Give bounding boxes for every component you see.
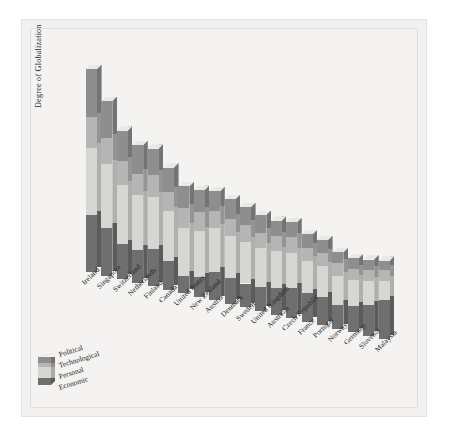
bar-segment-political (286, 222, 297, 237)
bar-segment-technological (148, 175, 159, 197)
bar-segment-political (117, 131, 128, 162)
legend-swatch-segment-personal (38, 367, 51, 378)
legend-swatch-icon (38, 353, 55, 385)
bar-segment-political (86, 69, 97, 117)
bar-segment-political (348, 258, 359, 269)
bar-segment-personal (363, 281, 374, 305)
bar-segment-political (379, 261, 390, 270)
bar-front-face (255, 215, 266, 311)
bar-united-states (178, 182, 194, 293)
legend-swatch-side (51, 353, 55, 385)
bar-front-face (286, 222, 297, 318)
bar-front-face (317, 240, 328, 325)
bar-segment-personal (209, 228, 220, 272)
bar-ireland (86, 65, 102, 272)
bar-segment-technological (132, 174, 143, 196)
legend-swatch-side-segment-personal (51, 367, 55, 378)
legend: Political Technological Personal Economi… (38, 344, 178, 396)
bar-segment-technological (348, 269, 359, 280)
bar-side-segment-personal (390, 276, 395, 296)
bar-segment-political (225, 199, 236, 219)
bar-segment-personal (332, 276, 343, 304)
legend-swatch-front (38, 357, 51, 385)
bar-segment-political (317, 240, 328, 253)
bar-denmark (225, 195, 241, 304)
bar-front-face (379, 261, 390, 339)
bar-segment-technological (379, 270, 390, 281)
bar-segment-technological (317, 253, 328, 266)
bar-segment-technological (302, 248, 313, 261)
bar-segment-personal (255, 248, 266, 287)
bar-segment-technological (194, 212, 205, 232)
bar-sweden (240, 203, 256, 308)
bar-front-face (225, 199, 236, 304)
legend-swatch-segment-economic (38, 378, 51, 385)
bar-segment-personal (271, 251, 282, 288)
bar-czech-republic (286, 218, 302, 319)
bar-segment-technological (101, 138, 112, 164)
bar-segment-technological (255, 233, 266, 248)
bar-front-face (101, 101, 112, 275)
bar-segment-personal (117, 185, 128, 244)
bar-switzerland (117, 126, 133, 279)
bar-segment-technological (117, 161, 128, 185)
bar-segment-political (194, 190, 205, 212)
bar-segment-political (332, 252, 343, 263)
bar-segment-personal (148, 197, 159, 249)
bar-segment-personal (225, 236, 236, 277)
bar-segment-personal (163, 211, 174, 261)
bar-segment-political (148, 149, 159, 175)
bar-segment-political (209, 191, 220, 211)
bar-segment-political (363, 260, 374, 271)
bar-segment-personal (132, 195, 143, 250)
bar-segment-personal (178, 228, 189, 276)
bar-segment-political (271, 221, 282, 236)
bar-segment-personal (348, 280, 359, 306)
stacked-bar-3d-chart: Degree of Globalization IrelandSingapore… (0, 0, 449, 436)
bar-side-segment-technological (390, 265, 395, 276)
legend-swatch-side-segment-economic (51, 378, 55, 385)
bar-segment-political (101, 101, 112, 138)
bar-segment-political (163, 168, 174, 192)
bar-segment-personal (240, 242, 251, 283)
bar-front-face (178, 186, 189, 293)
bar-portugal (317, 236, 333, 326)
bar-finland (148, 144, 164, 286)
bar-singapore (101, 97, 117, 276)
bar-segment-technological (163, 192, 174, 212)
bar-segment-personal (286, 253, 297, 288)
bar-segment-technological (209, 211, 220, 228)
bar-canada (163, 163, 179, 290)
bar-front-face (132, 145, 143, 282)
bar-front-face (240, 207, 251, 307)
bar-segment-personal (379, 281, 390, 301)
bar-segment-technological (286, 237, 297, 252)
bar-front-face (117, 131, 128, 279)
bar-netherlands (132, 141, 148, 283)
bar-segment-economic (86, 215, 97, 272)
bar-segment-technological (271, 236, 282, 251)
bar-segment-political (178, 186, 189, 208)
bar-front-face (148, 149, 159, 286)
bar-segment-political (302, 234, 313, 247)
bar-front-face (348, 258, 359, 332)
bar-segment-political (255, 215, 266, 232)
bar-segment-technological (178, 208, 189, 228)
bar-segment-political (132, 145, 143, 173)
y-axis-title: Degree of Globalization (34, 0, 43, 108)
bar-front-face (332, 252, 343, 328)
bar-segment-technological (363, 270, 374, 281)
bar-segment-personal (302, 261, 313, 294)
bar-segment-personal (86, 148, 97, 216)
bar-segment-technological (332, 263, 343, 276)
chart-page: Degree of Globalization IrelandSingapore… (0, 0, 449, 436)
bar-segment-personal (194, 231, 205, 277)
bar-segment-technological (225, 219, 236, 236)
bar-united-kingdom (255, 211, 271, 312)
bar-segment-technological (86, 117, 97, 148)
bar-segment-personal (317, 266, 328, 297)
bar-segment-technological (240, 225, 251, 242)
bar-segment-political (240, 207, 251, 224)
bar-segment-personal (101, 164, 112, 227)
bar-front-face (86, 69, 97, 272)
